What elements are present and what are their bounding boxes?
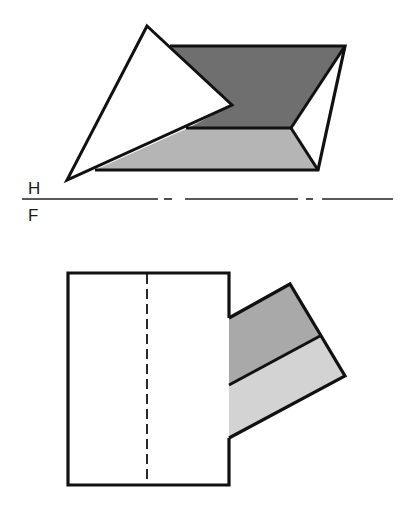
orthographic-drawing: H F	[0, 0, 413, 511]
top-view	[67, 26, 345, 180]
front-view	[68, 273, 345, 485]
label-h: H	[28, 179, 40, 198]
label-f: F	[28, 206, 38, 225]
front-block-outline	[68, 273, 229, 485]
